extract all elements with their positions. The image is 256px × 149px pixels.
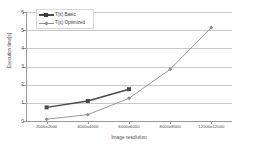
chart-container: 0123456 2000x20004000x40006000x60008000x… — [0, 0, 256, 149]
y-tick-label: 1 — [4, 100, 24, 105]
y-axis-title: Execution time[s] — [7, 21, 12, 81]
gridline — [26, 30, 232, 31]
y-tick-label: 0 — [4, 119, 24, 124]
x-axis-title: Image resolution — [26, 135, 232, 141]
y-tick-label: 2 — [4, 82, 24, 87]
x-tick-label: 6000x6000 — [118, 124, 139, 129]
x-tick-label: 4000x4000 — [77, 124, 98, 129]
gridline — [26, 67, 232, 68]
legend-label: T(s) Basic — [54, 12, 76, 18]
gridline — [26, 48, 232, 49]
legend-marker-square-icon — [39, 12, 54, 19]
y-axis-line — [26, 12, 27, 121]
gridline — [26, 103, 232, 104]
legend-label: T(s) Optimized — [54, 20, 85, 26]
legend-marker-diamond-icon — [39, 20, 54, 27]
gridline — [26, 85, 232, 86]
legend-item-optimized[interactable]: T(s) Optimized — [38, 19, 92, 27]
legend-item-basic[interactable]: T(s) Basic — [38, 11, 92, 19]
chart-legend: T(s) Basic T(s) Optimized — [36, 9, 94, 29]
x-tick-label: 8000x8000 — [160, 124, 181, 129]
y-tick-label: 6 — [4, 10, 24, 15]
x-tick-label: 12000x12000 — [198, 124, 224, 129]
x-tick-label: 2000x2000 — [36, 124, 57, 129]
